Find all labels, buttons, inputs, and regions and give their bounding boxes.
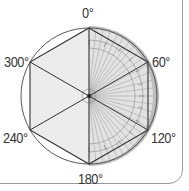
label-180-degrees: 180°: [78, 171, 103, 186]
hexagon-protractor-diagram: [0, 0, 189, 191]
label-120-degrees: 120°: [151, 130, 176, 145]
label-0-degrees: 0°: [82, 5, 93, 20]
label-60-degrees: 60°: [152, 54, 170, 69]
protractor: [82, 26, 159, 166]
label-300-degrees: 300°: [4, 54, 29, 69]
label-240-degrees: 240°: [3, 130, 28, 145]
center-point: [87, 94, 91, 98]
